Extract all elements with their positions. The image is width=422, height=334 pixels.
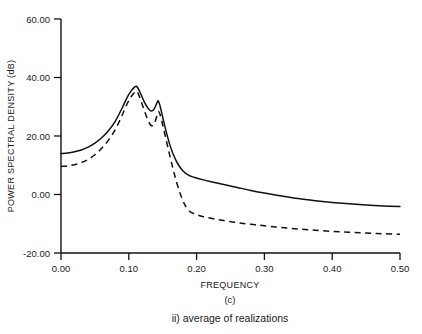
x-axis-title: FREQUENCY xyxy=(200,280,259,290)
x-tick-label-1: 0.10 xyxy=(120,263,139,274)
figure-subcaption: ii) average of realizations xyxy=(172,312,289,324)
y-tick-label-0: -20.00 xyxy=(23,248,50,259)
x-tick-label-4: 0.40 xyxy=(323,263,342,274)
x-tick-label-2: 0.20 xyxy=(187,263,206,274)
y-tick-label-1: 0.00 xyxy=(32,189,51,200)
y-tick-label-4: 60.00 xyxy=(26,14,50,25)
x-tick-label-5: 0.50 xyxy=(391,263,410,274)
x-tick-label-0: 0.00 xyxy=(52,263,71,274)
panel-label: (c) xyxy=(224,294,235,305)
x-tick-label-3: 0.30 xyxy=(255,263,274,274)
psd-chart: 60.00 40.00 20.00 0.00 -20.00 0.00 0.10 … xyxy=(0,0,422,334)
figure-panel: 60.00 40.00 20.00 0.00 -20.00 0.00 0.10 … xyxy=(0,0,422,334)
y-tick-label-3: 40.00 xyxy=(26,72,50,83)
series-line-solid xyxy=(61,86,400,206)
x-axis-ticks xyxy=(61,253,400,260)
series-line-dashed xyxy=(61,91,400,234)
y-axis-title: POWER SPECTRAL DENSITY (dB) xyxy=(6,60,16,213)
y-axis-ticks xyxy=(54,19,61,253)
y-tick-label-2: 20.00 xyxy=(26,131,50,142)
